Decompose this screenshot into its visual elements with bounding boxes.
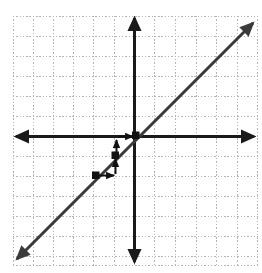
point-upper xyxy=(132,132,140,140)
point-middle xyxy=(112,152,120,160)
point-lower xyxy=(92,172,100,180)
graph-figure: Coordinate plane with a line of slope 1 … xyxy=(0,0,262,273)
coordinate-plane-svg xyxy=(0,0,262,273)
